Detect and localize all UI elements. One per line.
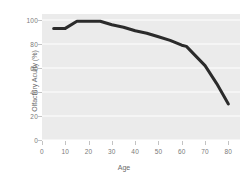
- x-tick-mark: [112, 141, 113, 145]
- x-tick-label: 70: [195, 148, 215, 155]
- x-tick-mark: [228, 141, 229, 145]
- y-axis-title-wrapper: Olfactory Acuity (%): [16, 14, 26, 140]
- x-tick-label: 60: [172, 148, 192, 155]
- chart-figure: 020406080100 01020304050607080 Age Olfac…: [0, 0, 248, 183]
- x-tick-label: 80: [218, 148, 238, 155]
- x-tick-mark: [89, 141, 90, 145]
- x-tick-mark: [182, 141, 183, 145]
- x-tick-mark: [158, 141, 159, 145]
- x-axis-title: Age: [0, 164, 248, 172]
- x-tick-mark: [205, 141, 206, 145]
- x-tick-label: 30: [102, 148, 122, 155]
- x-tick-label: 40: [125, 148, 145, 155]
- y-axis-title: Olfactory Acuity (%): [31, 18, 39, 144]
- x-tick-label: 20: [79, 148, 99, 155]
- x-tick-mark: [65, 141, 66, 145]
- x-tick-mark: [135, 141, 136, 145]
- x-tick-label: 10: [55, 148, 75, 155]
- x-tick-label: 50: [148, 148, 168, 155]
- x-tick-mark: [42, 141, 43, 145]
- x-tick-label: 0: [32, 148, 52, 155]
